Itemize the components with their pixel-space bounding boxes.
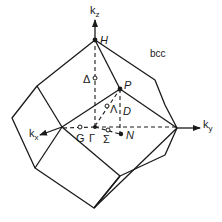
g-marker: [78, 125, 82, 129]
point-p-marker: [118, 87, 123, 92]
line-lambda-label: Λ: [110, 104, 117, 115]
line-delta-label: Δ: [83, 74, 90, 85]
point-n-label: N: [126, 130, 134, 141]
line-sigma-label: Σ: [103, 134, 110, 145]
point-h-label: H: [100, 35, 108, 46]
ky-axis-label: ky: [203, 119, 213, 133]
delta-marker: [93, 76, 97, 80]
point-gamma-label: Γ: [89, 133, 95, 144]
bcc-brillouin-zone-diagram: bcc kz ky kx H P N Γ Δ Λ Σ D G: [0, 0, 222, 222]
point-n-marker: [119, 132, 123, 136]
lattice-type-label: bcc: [150, 49, 166, 59]
point-h-marker: [93, 38, 98, 43]
kx-axis-label: kx: [29, 128, 39, 142]
kz-axis-label: kz: [90, 5, 100, 19]
point-p-label: P: [124, 80, 131, 91]
line-d-label: D: [123, 106, 131, 117]
line-g-label: G: [76, 133, 85, 144]
lambda-marker: [105, 104, 109, 108]
point-gamma-marker: [93, 125, 97, 129]
sigma-marker: [106, 128, 110, 132]
